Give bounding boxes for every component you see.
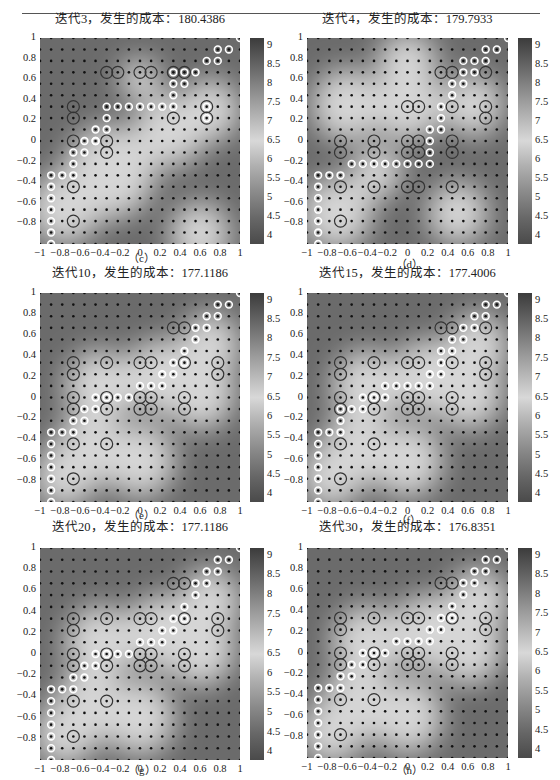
colorbar-tick-label: 9 <box>535 549 540 560</box>
y-tick-label: 0.4 <box>267 604 303 615</box>
colorbar-tick-label: 6 <box>535 153 540 164</box>
colorbar-tick-label: 6.5 <box>535 134 548 145</box>
x-tick-label: −0.8 <box>317 247 337 258</box>
x-tick-label: −0.2 <box>110 247 130 258</box>
panel-title: 迭代3，发生的成本：180.4386 <box>30 8 250 27</box>
y-tick-label: −0.8 <box>0 216 36 227</box>
colorbar-tick-label: 4 <box>267 745 272 756</box>
y-tick-label: 0.2 <box>0 626 36 637</box>
x-tick-label: −1 <box>297 505 317 516</box>
x-tick-label: −1 <box>297 761 317 772</box>
x-tick-label: −0.6 <box>337 505 357 516</box>
colorbar <box>518 38 532 244</box>
x-tick-label: 0.8 <box>210 763 230 774</box>
y-tick-label: −0.6 <box>0 453 36 464</box>
y-tick-label: −0.4 <box>267 175 303 186</box>
x-tick-label: 0.4 <box>438 761 458 772</box>
colorbar-tick-label: 7.5 <box>535 607 548 618</box>
colorbar-tick-label: 7.5 <box>535 352 548 363</box>
x-tick-label: −1 <box>30 505 50 516</box>
y-tick-label: 0.8 <box>0 562 36 573</box>
y-tick-label: 0.6 <box>0 583 36 594</box>
colorbar <box>518 293 532 502</box>
y-tick-label: 0.8 <box>0 307 36 318</box>
colorbar-tick-label: 5.5 <box>535 685 548 696</box>
colorbar-tick-label: 6 <box>535 665 540 676</box>
y-tick-label: 0 <box>0 647 36 658</box>
heatmap-plot <box>40 293 240 502</box>
colorbar-tick-label: 6.5 <box>535 646 548 657</box>
x-tick-label: 0.6 <box>458 505 478 516</box>
x-tick-label: 0.6 <box>190 505 210 516</box>
colorbar-tick-label: 7 <box>535 115 540 126</box>
x-tick-label: −0.8 <box>50 247 70 258</box>
heatmap-plot <box>40 38 240 244</box>
x-tick-label: −0.2 <box>377 761 397 772</box>
x-tick-label: −1 <box>30 763 50 774</box>
y-tick-label: 0.4 <box>267 93 303 104</box>
x-tick-label: 0.4 <box>170 505 190 516</box>
y-tick-label: 0.6 <box>267 328 303 339</box>
y-tick-label: 0.4 <box>0 93 36 104</box>
colorbar-tick-label: 5.5 <box>535 429 548 440</box>
y-tick-label: −0.4 <box>0 689 36 700</box>
y-tick-label: −0.2 <box>267 667 303 678</box>
x-tick-label: −0.8 <box>50 763 70 774</box>
x-tick-label: −0.4 <box>90 505 110 516</box>
y-tick-label: 0.8 <box>267 562 303 573</box>
y-tick-label: 0 <box>267 391 303 402</box>
x-tick-label: 1 <box>230 247 250 258</box>
heatmap-plot <box>40 548 240 760</box>
y-tick-label: 1 <box>267 541 303 552</box>
colorbar <box>518 548 532 758</box>
y-tick-label: 0 <box>267 646 303 657</box>
y-tick-label: 0.6 <box>267 583 303 594</box>
colorbar <box>250 548 264 760</box>
x-tick-label: −0.6 <box>337 761 357 772</box>
y-tick-label: 0 <box>267 134 303 145</box>
x-tick-label: 1 <box>230 505 250 516</box>
panel-title: 迭代10，发生的成本：177.1186 <box>30 262 250 281</box>
y-tick-label: 0 <box>0 134 36 145</box>
x-tick-label: −1 <box>297 247 317 258</box>
y-tick-label: −0.8 <box>267 474 303 485</box>
y-tick-label: 0.4 <box>0 605 36 616</box>
panel-caption: （h） <box>396 761 424 777</box>
colorbar-tick-label: 4 <box>267 229 272 240</box>
x-tick-label: −1 <box>30 247 50 258</box>
panel-title: 迭代4，发生的成本：179.7933 <box>297 8 518 27</box>
x-tick-label: 0.8 <box>478 247 498 258</box>
colorbar-tick-label: 4.5 <box>535 468 548 479</box>
colorbar-tick-label: 7.5 <box>535 96 548 107</box>
colorbar-tick-label: 8.5 <box>535 58 548 69</box>
y-tick-label: −0.8 <box>0 474 36 485</box>
y-tick-label: −0.6 <box>267 196 303 207</box>
y-tick-label: 1 <box>0 541 36 552</box>
x-tick-label: 0.8 <box>478 505 498 516</box>
x-tick-label: 0.4 <box>438 505 458 516</box>
x-tick-label: −0.6 <box>70 247 90 258</box>
y-tick-label: 0.6 <box>267 72 303 83</box>
y-tick-label: −0.2 <box>267 411 303 422</box>
y-tick-label: −0.6 <box>267 709 303 720</box>
x-tick-label: −0.2 <box>110 763 130 774</box>
y-tick-label: 0.4 <box>267 349 303 360</box>
x-tick-label: 1 <box>498 505 518 516</box>
y-tick-label: 1 <box>267 31 303 42</box>
panel-title: 迭代15，发生的成本：177.4006 <box>297 262 518 281</box>
colorbar-tick-label: 8.5 <box>535 568 548 579</box>
colorbar-tick-label: 4 <box>535 743 540 754</box>
colorbar-tick-label: 7 <box>535 627 540 638</box>
y-tick-label: 0.2 <box>267 113 303 124</box>
colorbar <box>250 293 264 502</box>
y-tick-label: 0.4 <box>0 349 36 360</box>
x-tick-label: 0.6 <box>458 761 478 772</box>
x-tick-label: −0.6 <box>337 247 357 258</box>
y-tick-label: 0.8 <box>0 52 36 63</box>
y-tick-label: −0.2 <box>267 155 303 166</box>
x-tick-label: 0.8 <box>210 247 230 258</box>
x-tick-label: −0.6 <box>70 763 90 774</box>
heatmap-plot <box>307 548 508 758</box>
y-tick-label: 0.8 <box>267 307 303 318</box>
x-tick-label: −0.4 <box>357 505 377 516</box>
